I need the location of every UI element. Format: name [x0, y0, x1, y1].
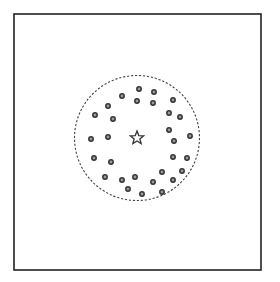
dot: [133, 175, 137, 179]
dot: [111, 117, 115, 121]
dot: [172, 139, 176, 143]
diagram-canvas: [0, 0, 280, 282]
dot: [180, 169, 184, 173]
dot: [120, 94, 124, 98]
dot: [171, 155, 175, 159]
dot: [92, 156, 96, 160]
dot: [160, 190, 164, 194]
dot: [171, 98, 175, 102]
dot: [151, 101, 155, 105]
dot: [109, 160, 113, 164]
dot: [135, 99, 139, 103]
dot: [89, 137, 93, 141]
dot: [151, 180, 155, 184]
dot: [106, 104, 110, 108]
dot: [188, 134, 192, 138]
dot: [178, 115, 182, 119]
dot: [167, 111, 171, 115]
dot: [140, 192, 144, 196]
dot: [167, 128, 171, 132]
dot: [106, 135, 110, 139]
dot: [160, 170, 164, 174]
dot: [103, 175, 107, 179]
dot: [137, 87, 141, 91]
dot: [93, 113, 97, 117]
dot: [152, 90, 156, 94]
dot: [120, 178, 124, 182]
dot: [126, 187, 130, 191]
center-star-icon: [130, 131, 143, 144]
dot: [185, 156, 189, 160]
dot: [171, 178, 175, 182]
